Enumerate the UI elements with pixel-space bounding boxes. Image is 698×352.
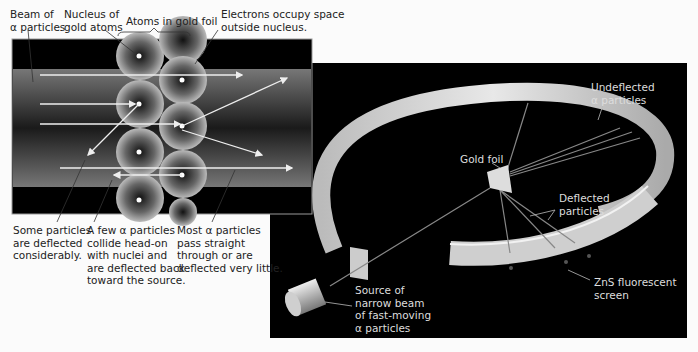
most-pass-label: Most α particles pass straight through o… — [177, 224, 283, 274]
undeflected-label: Undeflected α particles — [591, 81, 655, 106]
deflected-label: Deflected particles — [559, 192, 610, 217]
atoms-label: Atoms in gold foil — [126, 15, 217, 28]
atomic-view-panel — [12, 16, 312, 226]
nucleus-label: Nucleus of gold atoms — [64, 8, 123, 33]
source-label: Source of narrow beam of fast-moving α p… — [355, 284, 431, 334]
gold-foil-label: Gold foil — [460, 153, 503, 166]
zns-screen-label: ZnS fluorescent screen — [594, 276, 677, 301]
some-deflected-label: Some particles are deflected considerabl… — [13, 224, 91, 262]
beam-label: Beam of α particles — [10, 8, 65, 33]
electrons-label: Electrons occupy space outside nucleus. — [221, 8, 345, 33]
few-collide-label: A few α particles collide head-on with n… — [87, 224, 185, 287]
